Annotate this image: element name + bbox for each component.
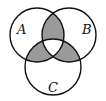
- venn-diagram: A B C: [0, 0, 106, 101]
- label-b: B: [81, 22, 92, 37]
- label-c: C: [48, 80, 58, 95]
- label-a: A: [16, 22, 26, 37]
